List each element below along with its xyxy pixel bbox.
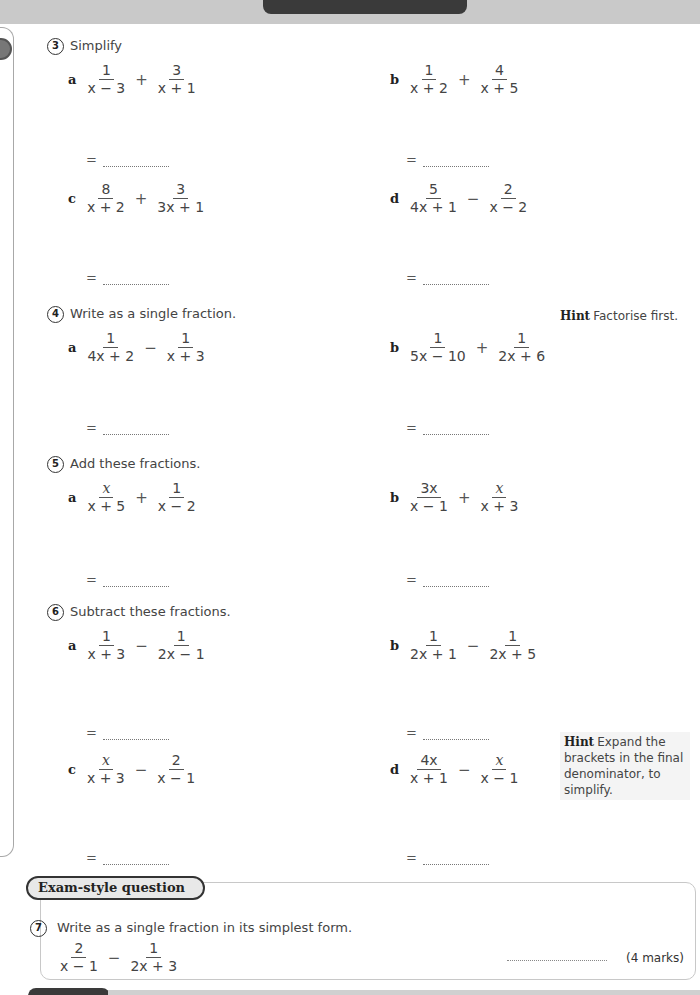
fraction: xx + 5	[84, 480, 128, 515]
question-number-5: 5	[47, 456, 64, 473]
part-label: c	[68, 191, 76, 206]
question-4a: a 14x + 2 − 1x + 3	[68, 330, 210, 365]
answer-6b[interactable]: =	[406, 725, 489, 740]
fraction: xx − 1	[478, 752, 522, 787]
operator: −	[467, 637, 480, 655]
part-label: d	[390, 191, 399, 206]
page-header-tab	[263, 0, 467, 14]
question-3d: d 54x + 1 − 2x − 2	[390, 181, 532, 216]
question-3b: b 1x + 2 + 4x + 5	[390, 62, 523, 97]
question-number-4: 4	[47, 306, 64, 323]
question-6a: a 1x + 3 − 12x − 1	[68, 628, 210, 663]
answer-6c[interactable]: =	[86, 850, 169, 865]
fraction: xx + 3	[84, 752, 128, 787]
question-instruction-5: Add these fractions.	[70, 456, 200, 471]
fraction: 12x + 6	[495, 330, 548, 365]
operator: +	[458, 71, 471, 89]
operator: −	[458, 761, 471, 779]
question-5b: b 3xx − 1 + xx + 3	[390, 480, 523, 515]
fraction: 12x + 3	[127, 940, 180, 975]
hint-6: HintExpand the brackets in the final den…	[560, 732, 690, 800]
question-5a: a xx + 5 + 1x − 2	[68, 480, 201, 515]
fraction: 12x + 1	[407, 628, 460, 663]
answer-7[interactable]	[507, 953, 607, 961]
fraction: 2x − 2	[486, 181, 530, 216]
fraction: 1x − 3	[84, 62, 128, 97]
part-label: b	[390, 72, 399, 87]
answer-4a[interactable]: =	[86, 420, 169, 435]
operator: +	[135, 489, 148, 507]
question-3c: c 8x + 2 + 33x + 1	[68, 181, 209, 216]
operator: −	[467, 190, 480, 208]
page-footer-band	[108, 990, 700, 995]
exam-question-title: Exam-style question	[26, 876, 205, 900]
fraction: 12x + 5	[486, 628, 539, 663]
question-instruction-6: Subtract these fractions.	[70, 604, 231, 619]
operator: −	[135, 761, 148, 779]
operator: +	[476, 339, 489, 357]
answer-4b[interactable]: =	[406, 420, 489, 435]
marks-label: (4 marks)	[626, 951, 684, 965]
fraction: xx + 3	[478, 480, 522, 515]
part-label: b	[390, 340, 399, 355]
answer-3b[interactable]: =	[406, 152, 489, 167]
answer-3a[interactable]: =	[86, 152, 169, 167]
fraction: 2x − 1	[154, 752, 198, 787]
question-7: 2x − 1 − 12x + 3	[55, 940, 182, 975]
answer-3c[interactable]: =	[86, 270, 169, 285]
answer-6d[interactable]: =	[406, 850, 489, 865]
fraction: 3xx − 1	[407, 480, 451, 515]
page-footer-tab	[28, 988, 110, 995]
question-instruction-7: Write as a single fraction in its simple…	[57, 920, 352, 935]
fraction: 4x + 5	[478, 62, 522, 97]
question-number-3: 3	[47, 38, 64, 55]
fraction: 33x + 1	[154, 181, 207, 216]
fraction: 15x − 10	[407, 330, 469, 365]
answer-5b[interactable]: =	[406, 572, 489, 587]
part-label: b	[390, 638, 399, 653]
fraction: 2x − 1	[57, 940, 101, 975]
operator: −	[135, 637, 148, 655]
hint-4: HintFactorise first.	[560, 308, 678, 324]
operator: +	[135, 71, 148, 89]
part-label: a	[68, 72, 76, 87]
part-label: c	[68, 762, 76, 777]
part-label: a	[68, 490, 76, 505]
question-6b: b 12x + 1 − 12x + 5	[390, 628, 541, 663]
question-number-7: 7	[30, 920, 47, 937]
fraction: 4xx + 1	[407, 752, 451, 787]
question-4b: b 15x − 10 + 12x + 6	[390, 330, 550, 365]
answer-6a[interactable]: =	[86, 725, 169, 740]
answer-5a[interactable]: =	[86, 572, 169, 587]
operator: +	[458, 489, 471, 507]
question-6d: d 4xx + 1 − xx − 1	[390, 752, 523, 787]
part-label: d	[390, 762, 399, 777]
fraction: 1x + 3	[84, 628, 128, 663]
part-label: a	[68, 340, 76, 355]
question-6c: c xx + 3 − 2x − 1	[68, 752, 200, 787]
operator: −	[144, 339, 157, 357]
fraction: 3x + 1	[155, 62, 199, 97]
part-label: b	[390, 490, 399, 505]
side-panel-border	[0, 27, 14, 857]
part-label: a	[68, 638, 76, 653]
question-instruction-3: Simplify	[70, 38, 122, 53]
fraction: 1x + 2	[407, 62, 451, 97]
answer-3d[interactable]: =	[406, 270, 489, 285]
operator: −	[108, 949, 121, 967]
question-3a: a 1x − 3 + 3x + 1	[68, 62, 201, 97]
question-number-6: 6	[47, 604, 64, 621]
fraction: 12x − 1	[155, 628, 208, 663]
fraction: 54x + 1	[407, 181, 460, 216]
question-instruction-4: Write as a single fraction.	[70, 306, 236, 321]
fraction: 1x − 2	[155, 480, 199, 515]
fraction: 14x + 2	[84, 330, 137, 365]
operator: +	[135, 190, 148, 208]
fraction: 1x + 3	[164, 330, 208, 365]
fraction: 8x + 2	[84, 181, 128, 216]
